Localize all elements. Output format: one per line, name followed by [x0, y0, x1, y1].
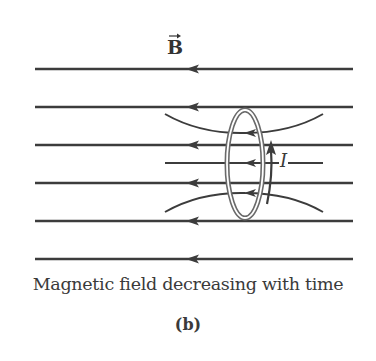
current-label-i: I	[279, 150, 288, 172]
figure-sublabel: (b)	[0, 315, 376, 334]
figure-caption: Magnetic field decreasing with time	[0, 274, 376, 294]
induced-curve-bottom	[165, 193, 323, 212]
induced-curve-top	[165, 114, 323, 133]
figure-canvas: B I Magnetic field decreasing with time …	[0, 0, 376, 361]
field-label-b: B	[167, 36, 183, 58]
magnetic-field-diagram	[0, 0, 376, 361]
